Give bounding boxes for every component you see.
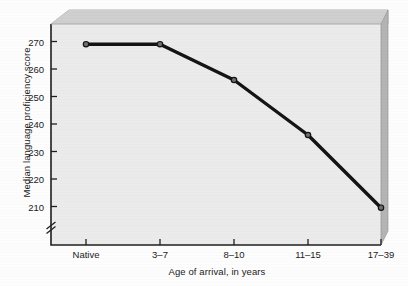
plot-area-background (51, 24, 381, 245)
data-point-11-15 (305, 132, 310, 137)
line-chart-plot (0, 0, 408, 286)
x-tick-label-17-39: 17–39 (351, 249, 408, 260)
x-axis-title: Age of arrival, in years (51, 266, 383, 277)
x-tick-label-native: Native (56, 249, 116, 260)
data-point-native (83, 42, 88, 47)
x-tick-label-11-15: 11–15 (278, 249, 338, 260)
data-point-3-7 (157, 42, 162, 47)
data-point-17-39 (378, 205, 383, 210)
figure-container: 270 260 250 240 230 220 210 Native 3–7 8… (0, 0, 408, 286)
y-axis-title: Median language proficiency score (21, 13, 32, 233)
x-tick-label-8-10: 8–10 (204, 249, 264, 260)
data-point-8-10 (231, 77, 236, 82)
x-tick-label-3-7: 3–7 (130, 249, 190, 260)
plot-frame-top-bevel-face (51, 10, 388, 24)
